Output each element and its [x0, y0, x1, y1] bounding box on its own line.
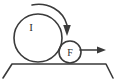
small-disk-label: F: [67, 47, 73, 58]
clockwise-rotation-arrowhead-icon: [63, 25, 71, 36]
large-disk: [14, 14, 62, 62]
ground-support: [3, 64, 113, 78]
force-arrow-head-icon: [97, 46, 106, 53]
figure-canvas: I F: [0, 0, 115, 81]
mechanics-figure: I F: [0, 0, 115, 81]
large-disk-label: I: [29, 21, 33, 33]
